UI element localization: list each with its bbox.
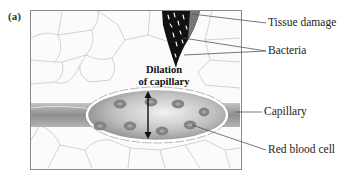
callout-red-blood-cell: Red blood cell	[268, 143, 335, 155]
dilation-label: Dilation of capillary	[124, 64, 204, 88]
callout-capillary: Capillary	[264, 105, 307, 117]
dilation-label-line1: Dilation	[124, 64, 204, 76]
leader-tissue-damage	[192, 14, 266, 23]
leader-red-blood-cell	[192, 125, 266, 150]
callout-bacteria: Bacteria	[268, 44, 306, 56]
dilation-label-line2: of capillary	[124, 76, 204, 88]
callout-tissue-damage: Tissue damage	[268, 16, 336, 28]
leader-bacteria-1	[183, 38, 266, 51]
leader-bacteria-2	[184, 51, 266, 55]
